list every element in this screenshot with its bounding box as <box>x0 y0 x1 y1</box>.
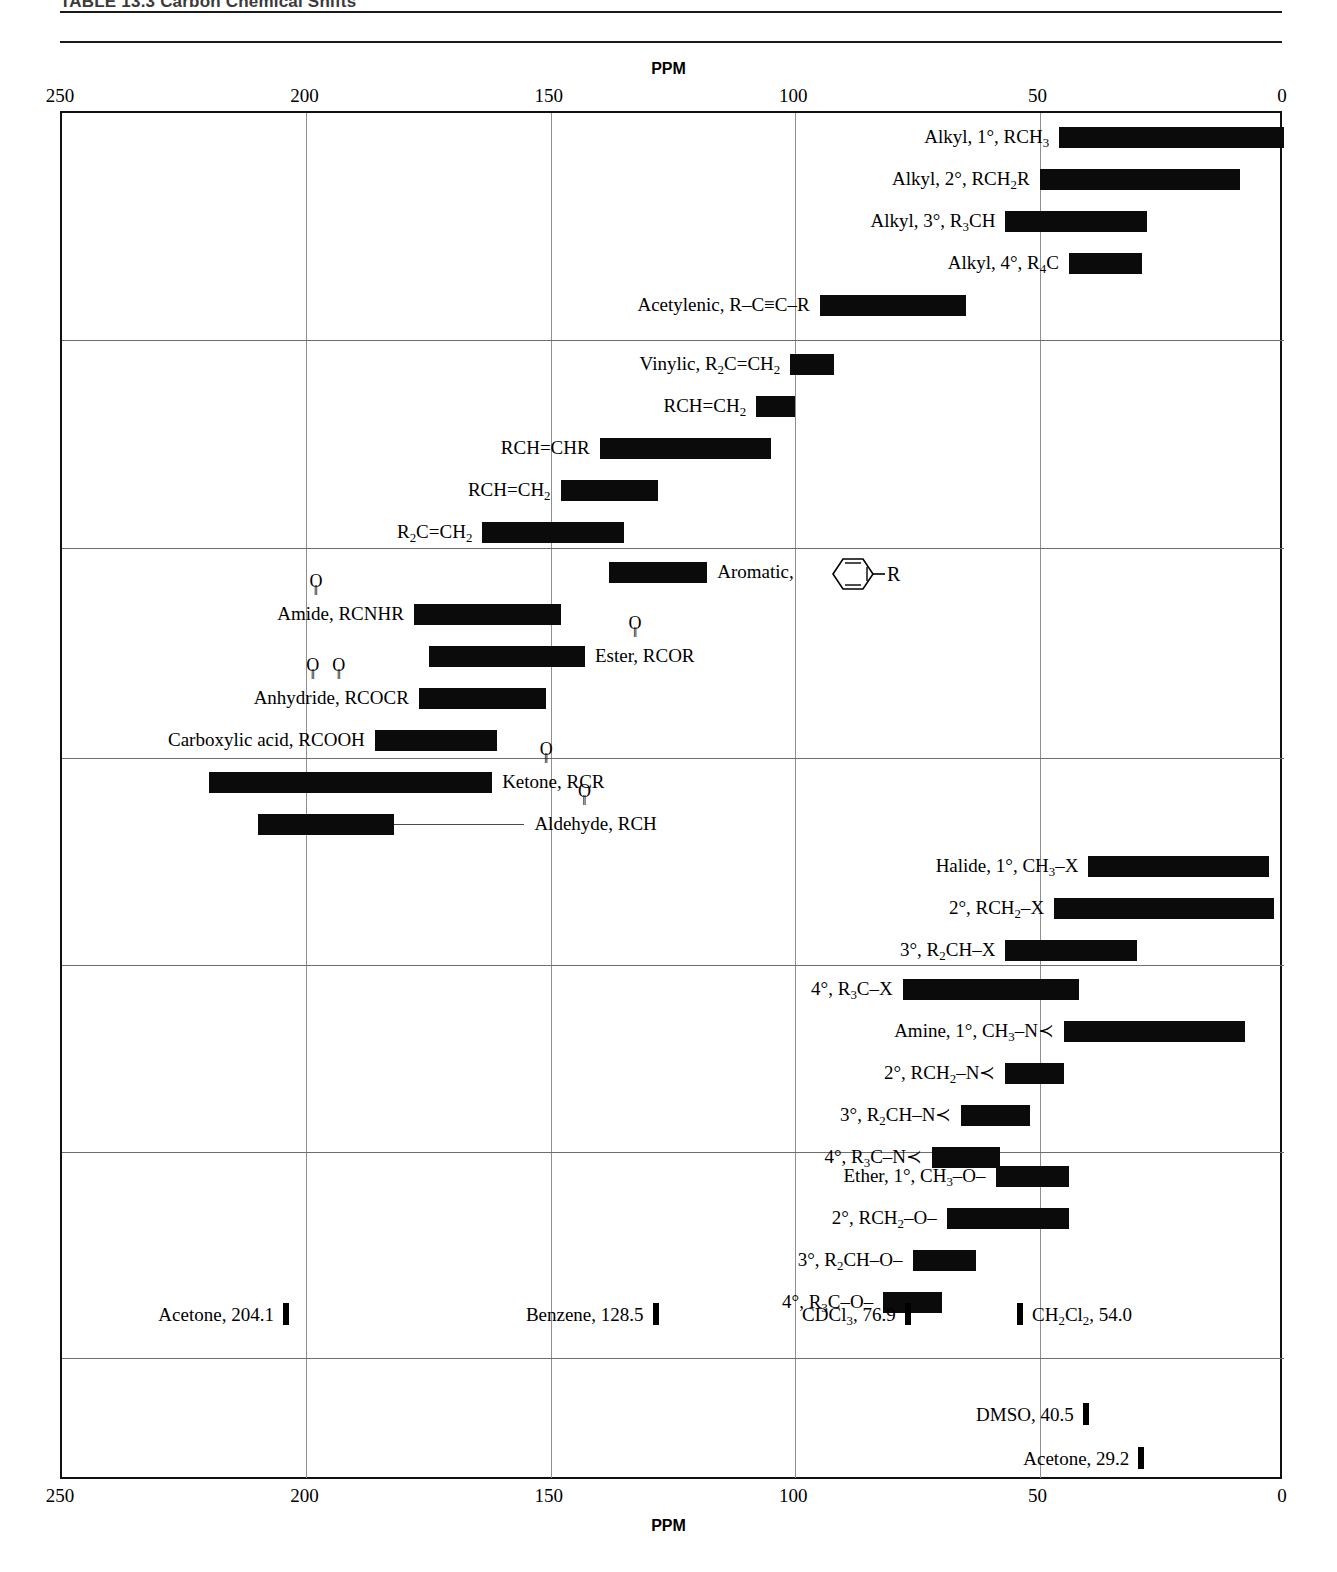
chart-row: Ether, 1°, CH3–O– <box>62 1164 1284 1188</box>
shift-range-bar <box>482 522 624 543</box>
chart-row: 3°, R2CH–O– <box>62 1248 1284 1272</box>
solvent-reference-label: DMSO, 40.5 <box>976 1403 1074 1427</box>
shift-range-bar <box>429 646 585 667</box>
axis-tick-150-bottom: 150 <box>535 1485 564 1507</box>
shift-range-label: Anhydride, RCOCR <box>254 686 409 710</box>
chart-row: RCH=CHR <box>62 436 1284 460</box>
shift-range-label: Ether, 1°, CH3–O– <box>844 1164 986 1188</box>
chart-row: Carboxylic acid, RCOOH <box>62 728 1284 752</box>
shift-range-label: Alkyl, 4°, R4C <box>948 251 1059 275</box>
solvent-reference-label: Acetone, 29.2 <box>1023 1447 1129 1471</box>
shift-range-bar <box>600 438 771 459</box>
axis-tick-150-top: 150 <box>535 85 564 107</box>
band-separator-2 <box>62 548 1284 549</box>
shift-range-label: 3°, R2CH–N≺ <box>840 1103 951 1127</box>
chart-row: Alkyl, 1°, RCH3 <box>62 125 1284 149</box>
gridline-100 <box>795 113 796 1478</box>
shift-range-bar <box>1059 127 1284 148</box>
shift-range-label: Aromatic, <box>717 560 794 584</box>
shift-range-bar <box>1054 898 1274 919</box>
leader-line <box>394 824 524 825</box>
chart-row: R2C=CH2 <box>62 520 1284 544</box>
shift-range-bar <box>1040 169 1240 190</box>
solvent-reference-label: CH2Cl2, 54.0 <box>1032 1303 1132 1327</box>
axis-tick-50-top: 50 <box>1028 85 1047 107</box>
axis-label-bottom: PPM <box>0 1517 1337 1535</box>
shift-range-bar <box>790 354 834 375</box>
chart-row: RCH=CH2 <box>62 478 1284 502</box>
solvent-reference-label: CDCl3, 76.9 <box>802 1303 896 1327</box>
shift-range-bar <box>1005 1063 1064 1084</box>
gridline-150 <box>551 113 552 1478</box>
carbonyl-oxygen-glyph: O‖ <box>330 660 348 679</box>
shift-range-label: Ester, RCOR <box>595 644 695 668</box>
shift-range-bar <box>947 1208 1069 1229</box>
shift-range-bar <box>209 772 493 793</box>
chart-row: 2°, RCH2–X <box>62 896 1284 920</box>
shift-range-label: Carboxylic acid, RCOOH <box>168 728 365 752</box>
carbonyl-oxygen-glyph: O‖ <box>575 786 593 805</box>
solvent-reference-tick <box>283 1303 289 1325</box>
shift-range-bar <box>609 562 707 583</box>
chart-row: 4°, R3C–X <box>62 977 1284 1001</box>
axis-tick-200-bottom: 200 <box>290 1485 319 1507</box>
shift-range-bar <box>903 979 1079 1000</box>
shift-range-bar <box>258 814 395 835</box>
chart-row: Anhydride, RCOCRO‖O‖ <box>62 686 1284 710</box>
chart-row: 3°, R2CH–X <box>62 938 1284 962</box>
band-separator-3 <box>62 758 1284 759</box>
shift-range-label: 4°, R3C–X <box>811 977 893 1001</box>
chart-row: Alkyl, 2°, RCH2R <box>62 167 1284 191</box>
shift-range-label: Amide, RCNHR <box>277 602 404 626</box>
shift-range-bar <box>1064 1021 1245 1042</box>
chart-row: 2°, RCH2–O– <box>62 1206 1284 1230</box>
shift-range-bar <box>820 295 967 316</box>
shift-range-bar <box>1005 940 1137 961</box>
axis-tick-250-top: 250 <box>46 85 75 107</box>
chart-plot-area: Alkyl, 1°, RCH3Alkyl, 2°, RCH2RAlkyl, 3°… <box>60 113 1282 1478</box>
chart-row: Ketone, RCRO‖ <box>62 770 1284 794</box>
shift-range-label: 2°, RCH2–X <box>949 896 1044 920</box>
chart-row: Acetylenic, R–C≡C–R <box>62 293 1284 317</box>
chart-row: Alkyl, 3°, R3CH <box>62 209 1284 233</box>
benzene-ring-icon: R <box>827 554 905 598</box>
shift-range-bar <box>375 730 497 751</box>
shift-range-label: 3°, R2CH–O– <box>798 1248 903 1272</box>
shift-range-label: RCH=CH2 <box>663 394 746 418</box>
shift-range-bar <box>561 480 659 501</box>
axis-label-top: PPM <box>0 60 1337 78</box>
chart-row: Vinylic, R2C=CH2 <box>62 352 1284 376</box>
shift-range-bar <box>1069 253 1142 274</box>
shift-range-bar <box>996 1166 1069 1187</box>
shift-range-bar <box>756 396 795 417</box>
axis-tick-0-top: 0 <box>1277 85 1287 107</box>
shift-range-label: Acetylenic, R–C≡C–R <box>637 293 809 317</box>
chart-row: Aromatic,R <box>62 560 1284 584</box>
carbonyl-oxygen-glyph: O‖ <box>307 576 325 595</box>
axis-tick-100-top: 100 <box>779 85 808 107</box>
title-rule-bottom <box>60 41 1282 43</box>
shift-range-label: Alkyl, 3°, R3CH <box>870 209 995 233</box>
shift-range-label: RCH=CHR <box>501 436 590 460</box>
shift-range-bar <box>414 604 561 625</box>
solvent-reference-tick <box>1138 1447 1144 1469</box>
chart-row: Halide, 1°, CH3–X <box>62 854 1284 878</box>
chart-row: Aldehyde, RCHO‖ <box>62 812 1284 836</box>
svg-text:R: R <box>887 563 901 585</box>
shift-range-label: Amine, 1°, CH3–N≺ <box>894 1019 1054 1043</box>
carbonyl-oxygen-glyph: O‖ <box>304 660 322 679</box>
chart-row: RCH=CH2 <box>62 394 1284 418</box>
shift-range-label: R2C=CH2 <box>397 520 472 544</box>
chart-row: 3°, R2CH–N≺ <box>62 1103 1284 1127</box>
shift-range-bar <box>1088 856 1269 877</box>
shift-range-label: 2°, RCH2–N≺ <box>884 1061 995 1085</box>
chart-row: Amine, 1°, CH3–N≺ <box>62 1019 1284 1043</box>
gridline-200 <box>306 113 307 1478</box>
axis-tick-200-top: 200 <box>290 85 319 107</box>
solvent-reference-label: Benzene, 128.5 <box>526 1303 644 1327</box>
chart-row: Ester, RCORO‖ <box>62 644 1284 668</box>
band-separator-6 <box>62 1358 1284 1359</box>
solvent-reference-tick <box>1017 1303 1023 1325</box>
axis-tick-250-bottom: 250 <box>46 1485 75 1507</box>
solvent-reference-label: Acetone, 204.1 <box>158 1303 274 1327</box>
